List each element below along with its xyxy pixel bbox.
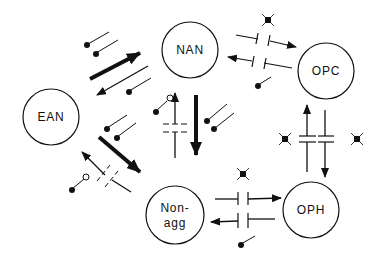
edge-ean-nonagg — [69, 115, 140, 193]
filled-pin-icon — [84, 42, 90, 48]
node-nan-label: NAN — [176, 43, 204, 57]
filled-pin-icon — [69, 187, 75, 193]
x-marker-icon — [262, 14, 274, 26]
node-non-agg-label-2: agg — [164, 216, 186, 230]
node-opc: OPC — [298, 43, 354, 99]
edge-nan-nonagg — [153, 93, 234, 158]
filled-pin-icon — [238, 242, 244, 248]
filled-pin-icon — [255, 83, 261, 89]
x-marker-icon — [279, 133, 291, 145]
open-pin-icon — [167, 95, 173, 101]
filled-pin-icon — [114, 135, 120, 141]
x-marker-icon — [237, 168, 249, 180]
node-oph-label: OPH — [297, 203, 325, 217]
open-pin-icon — [83, 174, 89, 180]
node-oph: OPH — [283, 182, 339, 238]
filled-pin-icon — [93, 51, 99, 57]
edge-nan-opc — [228, 14, 296, 89]
filled-pin-icon — [204, 118, 210, 124]
node-opc-label: OPC — [312, 64, 340, 78]
filled-pin-icon — [153, 109, 159, 115]
node-non-agg-label-1: Non- — [160, 201, 189, 215]
filled-pin-icon — [104, 126, 110, 132]
node-ean-label: EAN — [37, 110, 64, 124]
filled-pin-icon — [126, 89, 132, 95]
node-nan: NAN — [162, 22, 218, 78]
x-marker-icon — [351, 133, 363, 145]
node-ean: EAN — [23, 89, 79, 145]
edge-nonagg-oph — [211, 168, 281, 248]
node-non-agg: Non- agg — [146, 186, 204, 244]
filled-pin-icon — [211, 126, 217, 132]
edge-opc-oph — [279, 105, 363, 177]
state-transition-diagram: NAN OPC EAN OPH Non- agg — [0, 0, 381, 266]
edge-ean-nan — [84, 32, 151, 95]
